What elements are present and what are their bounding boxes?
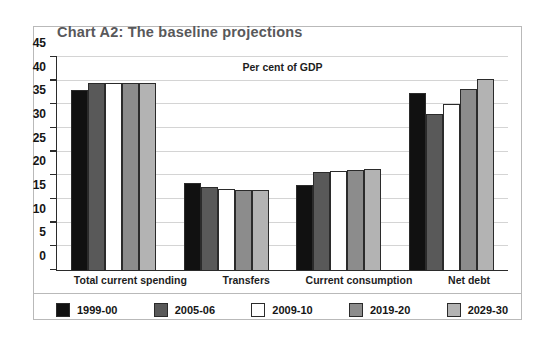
y-axis-label-35: 35 <box>33 83 46 97</box>
bar <box>139 83 156 270</box>
legend-separator <box>34 293 521 294</box>
bar-group <box>71 57 156 270</box>
y-tick-45 <box>50 56 57 57</box>
y-axis-label-20: 20 <box>33 154 46 168</box>
legend-label: 2009-10 <box>272 304 312 316</box>
category-label: Total current spending <box>74 274 187 290</box>
y-tick-15 <box>50 198 57 199</box>
bar-groups <box>57 57 508 270</box>
y-axis-label-10: 10 <box>33 202 46 216</box>
bar <box>364 169 381 270</box>
bar-group <box>409 57 494 270</box>
legend-label: 2019-20 <box>370 304 410 316</box>
y-axis-label-0: 0 <box>39 249 46 263</box>
plot-area: Per cent of GDP 051015202530354045 <box>56 57 508 271</box>
y-tick-30 <box>50 127 57 128</box>
legend-item[interactable]: 2019-20 <box>349 303 410 317</box>
bar <box>105 83 122 270</box>
bar <box>218 189 235 270</box>
bar <box>330 171 347 270</box>
bar <box>184 183 201 270</box>
chart-title: Chart A2: The baseline projections <box>57 24 303 40</box>
category-label: Net debt <box>448 274 490 290</box>
legend-swatch <box>447 303 461 317</box>
chart-legend: 1999-002005-062009-102019-202029-30 <box>56 301 508 319</box>
bar <box>235 190 252 270</box>
legend-swatch <box>154 303 168 317</box>
legend-swatch <box>251 303 265 317</box>
legend-item[interactable]: 1999-00 <box>56 303 117 317</box>
category-label: Current consumption <box>306 274 413 290</box>
y-tick-0 <box>50 269 57 270</box>
bar <box>122 83 139 270</box>
bar <box>477 79 494 270</box>
bar <box>201 187 218 270</box>
x-axis-category-labels: Total current spendingTransfersCurrent c… <box>56 274 508 290</box>
bar <box>426 114 443 270</box>
bar <box>88 83 105 270</box>
y-tick-5 <box>50 245 57 246</box>
y-tick-35 <box>50 103 57 104</box>
bar <box>347 170 364 270</box>
bar-group <box>184 57 269 270</box>
category-label: Transfers <box>223 274 270 290</box>
y-axis-label-45: 45 <box>33 36 46 50</box>
bar-group <box>296 57 381 270</box>
legend-swatch <box>56 303 70 317</box>
y-axis-label-30: 30 <box>33 107 46 121</box>
bar <box>71 90 88 270</box>
legend-item[interactable]: 2029-30 <box>447 303 508 317</box>
bar <box>443 104 460 270</box>
bar <box>296 185 313 270</box>
y-axis-label-25: 25 <box>33 131 46 145</box>
y-tick-25 <box>50 150 57 151</box>
y-axis-label-5: 5 <box>39 225 46 239</box>
bar <box>252 190 269 270</box>
legend-swatch <box>349 303 363 317</box>
legend-label: 2005-06 <box>175 304 215 316</box>
y-axis-label-15: 15 <box>33 178 46 192</box>
y-tick-20 <box>50 174 57 175</box>
legend-item[interactable]: 2009-10 <box>251 303 312 317</box>
legend-label: 2029-30 <box>468 304 508 316</box>
bar <box>409 93 426 270</box>
y-tick-40 <box>50 79 57 80</box>
y-axis-label-40: 40 <box>33 60 46 74</box>
bar <box>460 89 477 270</box>
y-tick-10 <box>50 221 57 222</box>
legend-label: 1999-00 <box>77 304 117 316</box>
legend-item[interactable]: 2005-06 <box>154 303 215 317</box>
bar <box>313 172 330 270</box>
